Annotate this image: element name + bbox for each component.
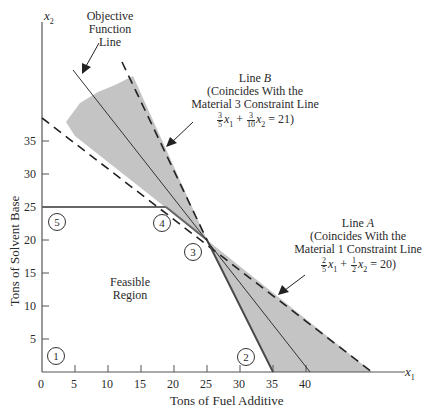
x-tick-label: 25 xyxy=(200,377,212,392)
feasible-region-label: Feasible Region xyxy=(100,276,160,302)
line-b-letter: B xyxy=(264,71,271,85)
objective-label-line3: Line xyxy=(72,36,148,49)
fraction: 25 xyxy=(321,257,327,274)
fraction: 12 xyxy=(351,257,357,274)
y-tick-label: 10 xyxy=(24,299,36,314)
x-tick-label: 35 xyxy=(266,377,278,392)
extreme-point-1: 1 xyxy=(47,347,65,365)
fraction: 35 xyxy=(217,112,223,129)
x-tick-label: 5 xyxy=(71,377,77,392)
x-axis-symbol: x1 xyxy=(405,364,415,382)
x-tick-label: 20 xyxy=(167,377,179,392)
feasible-label-line2: Region xyxy=(100,289,160,302)
extreme-point-5: 5 xyxy=(48,213,66,231)
x-tick-label: 10 xyxy=(101,377,113,392)
line-b-rhs: = 21) xyxy=(268,112,294,126)
line-a-letter: A xyxy=(367,216,374,230)
extreme-point-2: 2 xyxy=(237,348,255,366)
x-axis-title: Tons of Fuel Additive xyxy=(170,393,284,409)
y-tick-label: 20 xyxy=(24,233,36,248)
y-tick-label: 35 xyxy=(24,134,36,149)
line-b-title-prefix: Line xyxy=(239,71,264,85)
line-a-equation: 25x1 + 12x2 = 20) xyxy=(284,257,430,276)
y-tick-label: 25 xyxy=(24,200,36,215)
y-tick-label: 30 xyxy=(24,167,36,182)
y-axis-symbol: x2 xyxy=(44,8,54,26)
x-tick-label: 40 xyxy=(299,377,311,392)
extreme-point-3: 3 xyxy=(184,243,202,261)
lp-graph-figure: x2 x1 0 5 10 15 20 25 30 35 40 5 10 15 2… xyxy=(0,0,430,412)
line-b-equation: 35x1 + 310x2 = 21) xyxy=(180,112,330,131)
line-a-rhs: = 20) xyxy=(370,257,396,271)
line-b-line2: Material 3 Constraint Line xyxy=(180,98,330,111)
line-a-title-prefix: Line xyxy=(342,216,367,230)
fraction: 310 xyxy=(247,112,255,129)
line-b-label: Line B (Coincides With the Material 3 Co… xyxy=(180,72,330,131)
y-tick-label: 5 xyxy=(30,332,36,347)
x-axis-sub: 1 xyxy=(411,373,415,382)
line-a-label: Line A (Coincides With the Material 1 Co… xyxy=(284,217,430,276)
y-tick-label: 15 xyxy=(24,266,36,281)
y-ticks xyxy=(42,141,49,339)
line-a-line2: Material 1 Constraint Line xyxy=(284,243,430,256)
extreme-point-4: 4 xyxy=(153,214,171,232)
x-tick-label: 0 xyxy=(38,377,44,392)
x-tick-label: 15 xyxy=(134,377,146,392)
graph-canvas xyxy=(0,0,430,412)
y-axis-sub: 2 xyxy=(50,17,54,26)
arrow-line-a xyxy=(278,275,305,295)
x-tick-label: 30 xyxy=(233,377,245,392)
objective-function-label: Objective Function Line xyxy=(72,10,148,49)
y-axis-title: Tons of Solvent Base xyxy=(7,181,23,321)
